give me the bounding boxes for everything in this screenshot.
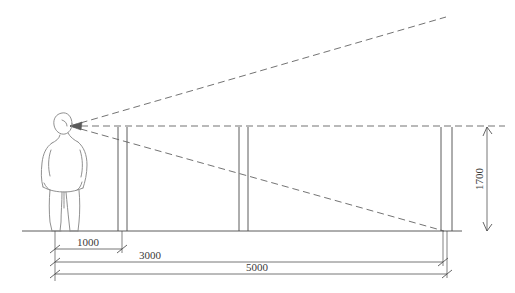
- upper-sight-line: [70, 17, 446, 126]
- post-2: [239, 127, 248, 231]
- elevation-drawing: 1000 3000 5000 1700: [0, 0, 515, 293]
- dimension-1000-label: 1000: [77, 236, 100, 248]
- diagram-canvas: 1000 3000 5000 1700: [0, 0, 515, 293]
- dimension-3000-label: 3000: [139, 249, 162, 261]
- human-figure-silhouette: [41, 113, 87, 231]
- dimension-1700: 1700: [473, 127, 492, 231]
- dimension-5000-label: 5000: [246, 261, 269, 273]
- post-1: [118, 127, 127, 231]
- lower-sight-line: [70, 126, 444, 231]
- dimension-1000: 1000: [50, 236, 127, 253]
- dimension-1700-label: 1700: [473, 168, 485, 191]
- dimension-5000: 5000: [50, 261, 452, 278]
- post-3: [441, 127, 452, 231]
